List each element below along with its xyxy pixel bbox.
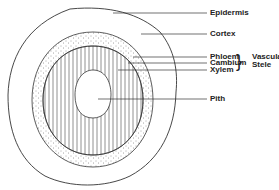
label-cortex: Cortex (210, 30, 235, 38)
stem-cross-section-diagram: Epidermis Cortex Phloem Cambium Xylem Pi… (0, 0, 279, 190)
pith-region (75, 70, 111, 118)
label-pith: Pith (210, 95, 225, 103)
label-xylem: Xylem (210, 66, 234, 74)
diagram-drawing (0, 0, 279, 190)
vascular-stele-brace: } (236, 52, 242, 70)
label-epidermis: Epidermis (210, 9, 249, 17)
label-stele: Stele (252, 61, 271, 69)
